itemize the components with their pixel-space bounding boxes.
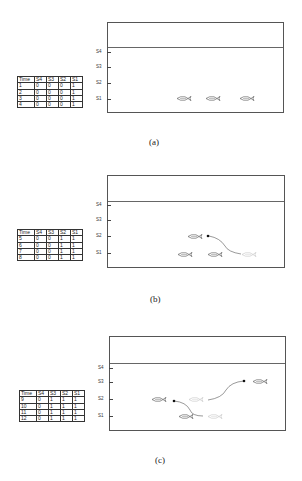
faded-caption-text <box>90 470 295 473</box>
fish-icon <box>152 397 166 401</box>
fish-icon <box>253 379 267 383</box>
fish-icon <box>188 234 202 238</box>
arrow-head-dot <box>243 380 246 383</box>
arrow-head-dot <box>207 235 210 238</box>
trajectory-arrow <box>209 236 241 254</box>
fish-icon <box>208 252 222 256</box>
fish-icon-faded <box>208 414 222 418</box>
fish-icon-faded <box>242 252 256 256</box>
trajectory-arrow <box>174 401 203 416</box>
trajectory-arrow <box>208 381 244 400</box>
arrow-head-dot <box>173 400 176 403</box>
fish-icon <box>178 252 192 256</box>
fish-icon <box>179 414 193 418</box>
fish-overlay <box>0 0 302 481</box>
fish-icon <box>240 96 254 100</box>
fish-icon-faded <box>189 397 203 401</box>
fish-icon <box>206 96 220 100</box>
fish-icon <box>177 96 191 100</box>
